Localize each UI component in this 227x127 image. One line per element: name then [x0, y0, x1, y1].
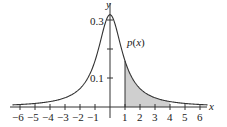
x-tick-label--4: −4 — [42, 111, 54, 123]
chart-canvas: y x 0.3 0.1 p(x) −6 −5 −4 −3 −2 −1 1 2 3… — [0, 0, 227, 127]
x-axis-label: x — [208, 100, 214, 112]
x-tick-label--6: −6 — [12, 111, 24, 123]
x-tick-label-6: 6 — [197, 111, 203, 123]
x-tick-label-4: 4 — [167, 111, 173, 123]
x-tick-label-5: 5 — [182, 111, 188, 123]
y-tick-label-0.3: 0.3 — [90, 15, 104, 27]
x-tick-label--1: −1 — [87, 111, 99, 123]
y-tick-label-0.1: 0.1 — [90, 72, 104, 84]
x-tick-label--3: −3 — [57, 111, 69, 123]
y-axis-label: y — [105, 0, 111, 10]
x-tick-label-1: 1 — [122, 111, 128, 123]
x-tick-label--2: −2 — [72, 111, 84, 123]
x-tick-label-3: 3 — [152, 111, 158, 123]
x-tick-label-2: 2 — [137, 111, 143, 123]
curve-label: p(x) — [126, 36, 145, 49]
plot-area — [10, 3, 208, 118]
x-tick-label--5: −5 — [27, 111, 39, 123]
